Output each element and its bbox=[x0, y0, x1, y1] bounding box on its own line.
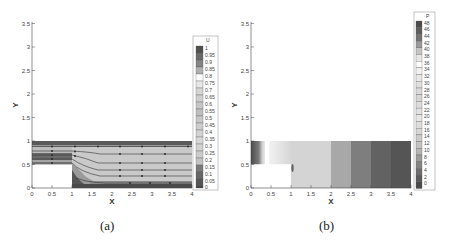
svg-text:18: 18 bbox=[424, 120, 430, 126]
svg-text:22: 22 bbox=[424, 107, 430, 113]
svg-text:24: 24 bbox=[424, 100, 430, 106]
svg-text:0.45: 0.45 bbox=[205, 122, 215, 128]
svg-text:2: 2 bbox=[246, 91, 250, 97]
svg-text:10: 10 bbox=[424, 147, 430, 153]
svg-text:0: 0 bbox=[205, 184, 208, 190]
svg-text:U: U bbox=[206, 37, 210, 43]
svg-text:3.5: 3.5 bbox=[241, 21, 250, 27]
svg-text:44: 44 bbox=[424, 33, 430, 39]
svg-text:1: 1 bbox=[27, 138, 31, 144]
svg-text:2.5: 2.5 bbox=[128, 191, 137, 197]
svg-text:20: 20 bbox=[424, 113, 430, 119]
velocity-contour-plot: 0 0.5 1 1.5 2 2.5 3 3.5 0 0.5 1 1.5 2 2.… bbox=[0, 0, 225, 245]
svg-text:3: 3 bbox=[246, 44, 250, 50]
svg-text:6: 6 bbox=[424, 160, 427, 166]
svg-text:1.5: 1.5 bbox=[88, 191, 97, 197]
svg-text:16: 16 bbox=[424, 127, 430, 133]
svg-text:4: 4 bbox=[424, 167, 427, 173]
svg-text:0.6: 0.6 bbox=[205, 101, 212, 107]
svg-text:42: 42 bbox=[424, 40, 430, 46]
svg-text:0.7: 0.7 bbox=[205, 87, 212, 93]
svg-text:0.1: 0.1 bbox=[205, 171, 212, 177]
legend-swatches bbox=[196, 46, 203, 188]
svg-text:0.15: 0.15 bbox=[205, 164, 215, 170]
svg-text:1: 1 bbox=[205, 45, 208, 51]
svg-text:1.5: 1.5 bbox=[22, 115, 31, 121]
svg-text:36: 36 bbox=[424, 60, 430, 66]
svg-text:12: 12 bbox=[424, 140, 430, 146]
svg-text:4: 4 bbox=[409, 191, 413, 197]
svg-text:4: 4 bbox=[190, 191, 194, 197]
svg-text:2.5: 2.5 bbox=[241, 68, 250, 74]
svg-text:2: 2 bbox=[424, 174, 427, 180]
legend-swatches bbox=[416, 21, 422, 189]
svg-text:0.3: 0.3 bbox=[205, 143, 212, 149]
x-axis-label: X bbox=[109, 197, 115, 206]
y-tick-labels: 0 0.5 1 1.5 2 2.5 3 3.5 bbox=[241, 21, 250, 192]
caption-b: (b) bbox=[319, 218, 334, 234]
svg-text:3: 3 bbox=[369, 191, 373, 197]
svg-text:0.65: 0.65 bbox=[205, 94, 215, 100]
svg-text:0.5: 0.5 bbox=[241, 162, 250, 168]
svg-text:0.5: 0.5 bbox=[267, 191, 276, 197]
svg-text:0.35: 0.35 bbox=[205, 136, 215, 142]
svg-text:0.4: 0.4 bbox=[205, 129, 212, 135]
svg-text:48: 48 bbox=[424, 20, 430, 26]
svg-text:0: 0 bbox=[249, 191, 253, 197]
svg-text:0.85: 0.85 bbox=[205, 66, 215, 72]
svg-text:34: 34 bbox=[424, 66, 430, 72]
caption-a: (a) bbox=[100, 218, 114, 234]
svg-text:0.8: 0.8 bbox=[205, 73, 212, 79]
svg-text:1: 1 bbox=[246, 138, 250, 144]
y-tick-labels: 0 0.5 1 1.5 2 2.5 3 3.5 bbox=[22, 21, 31, 192]
svg-text:1: 1 bbox=[289, 191, 293, 197]
svg-text:26: 26 bbox=[424, 93, 430, 99]
svg-text:0.25: 0.25 bbox=[205, 150, 215, 156]
svg-text:3: 3 bbox=[150, 191, 154, 197]
svg-text:2.5: 2.5 bbox=[22, 68, 31, 74]
svg-text:3: 3 bbox=[27, 44, 31, 50]
svg-text:0.75: 0.75 bbox=[205, 80, 215, 86]
x-axis-label: X bbox=[328, 197, 334, 206]
svg-text:1.5: 1.5 bbox=[241, 115, 250, 121]
svg-text:0.9: 0.9 bbox=[205, 59, 212, 65]
y-axis-label: Y bbox=[11, 102, 20, 108]
svg-text:0.5: 0.5 bbox=[22, 162, 31, 168]
svg-text:28: 28 bbox=[424, 87, 430, 93]
svg-text:3.5: 3.5 bbox=[168, 191, 177, 197]
svg-text:3.5: 3.5 bbox=[387, 191, 396, 197]
legend-p: P bbox=[414, 12, 435, 190]
panel-a: 0 0.5 1 1.5 2 2.5 3 3.5 0 0.5 1 1.5 2 2.… bbox=[0, 0, 225, 245]
velocity-field bbox=[32, 141, 192, 188]
svg-text:32: 32 bbox=[424, 73, 430, 79]
svg-text:40: 40 bbox=[424, 46, 430, 52]
svg-text:0.5: 0.5 bbox=[205, 115, 212, 121]
svg-text:0.2: 0.2 bbox=[205, 157, 212, 163]
svg-text:0.55: 0.55 bbox=[205, 108, 215, 114]
panel-b: 0 0.5 1 1.5 2 2.5 3 3.5 0 0.5 1 1.5 2 2.… bbox=[225, 0, 451, 245]
svg-text:1: 1 bbox=[70, 191, 74, 197]
y-axis-label: Y bbox=[230, 102, 239, 108]
pressure-contour-plot: 0 0.5 1 1.5 2 2.5 3 3.5 0 0.5 1 1.5 2 2.… bbox=[225, 0, 451, 245]
svg-text:38: 38 bbox=[424, 53, 430, 59]
svg-text:2: 2 bbox=[27, 91, 31, 97]
svg-text:30: 30 bbox=[424, 80, 430, 86]
svg-text:1.5: 1.5 bbox=[307, 191, 316, 197]
svg-text:46: 46 bbox=[424, 26, 430, 32]
svg-text:0: 0 bbox=[30, 191, 34, 197]
svg-text:0.95: 0.95 bbox=[205, 52, 215, 58]
svg-text:8: 8 bbox=[424, 154, 427, 160]
svg-text:0.5: 0.5 bbox=[48, 191, 57, 197]
legend-u: U bbox=[193, 36, 218, 190]
svg-text:0: 0 bbox=[424, 180, 427, 186]
svg-text:2.5: 2.5 bbox=[347, 191, 356, 197]
svg-text:3.5: 3.5 bbox=[22, 21, 31, 27]
svg-text:14: 14 bbox=[424, 133, 430, 139]
pressure-field bbox=[251, 141, 411, 188]
